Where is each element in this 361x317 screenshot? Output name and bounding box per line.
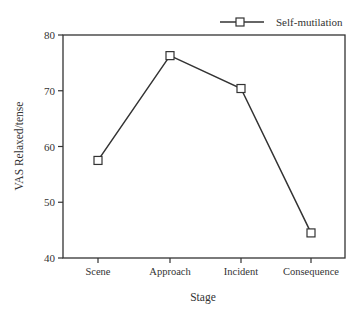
- y-axis: 4050607080: [44, 29, 63, 264]
- data-point-square-marker-icon: [307, 229, 315, 237]
- y-tick-label: 50: [44, 196, 56, 208]
- data-point-square-marker-icon: [237, 85, 245, 93]
- series-line: [98, 56, 311, 233]
- legend: Self-mutilation: [220, 16, 343, 28]
- x-tick-label: Consequence: [283, 266, 339, 277]
- data-point-square-marker-icon: [166, 52, 174, 60]
- x-axis-title: Stage: [190, 291, 216, 304]
- y-tick-label: 70: [44, 85, 56, 97]
- legend-label: Self-mutilation: [276, 16, 343, 28]
- y-tick-label: 40: [44, 252, 56, 264]
- series-self-mutilation: [94, 52, 315, 237]
- line-chart: Self-mutilation 4050607080 SceneApproach…: [0, 0, 361, 317]
- legend-square-marker-icon: [236, 18, 244, 26]
- data-point-square-marker-icon: [94, 156, 102, 164]
- x-tick-label: Approach: [149, 266, 191, 277]
- y-tick-label: 60: [44, 141, 56, 153]
- y-tick-label: 80: [44, 29, 56, 41]
- x-tick-label: Incident: [224, 266, 258, 277]
- plot-frame: [63, 35, 345, 258]
- x-tick-label: Scene: [85, 266, 110, 277]
- x-axis: SceneApproachIncidentConsequence: [85, 258, 339, 277]
- y-axis-title: VAS Relaxed/tense: [13, 102, 25, 191]
- chart-canvas: Self-mutilation 4050607080 SceneApproach…: [0, 0, 361, 317]
